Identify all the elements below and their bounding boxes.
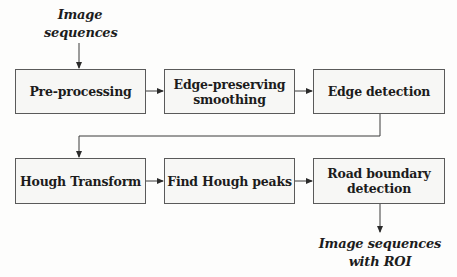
arrow-edge-detection-to-hough: [79, 113, 380, 157]
node-label: Pre-processing: [29, 84, 131, 99]
node-edge-detection: Edge detection: [313, 69, 445, 114]
output-label: Image sequences with ROI: [310, 235, 450, 271]
output-label-line2: with ROI: [310, 253, 450, 271]
input-label: Image sequences: [44, 6, 116, 42]
node-label-line1: Road boundary: [327, 166, 430, 181]
node-label: Hough Transform: [20, 174, 141, 189]
flowchart-canvas: Image sequences Pre-processing Edge-pres…: [0, 0, 457, 277]
node-hough-transform: Hough Transform: [15, 158, 146, 204]
input-label-line2: sequences: [44, 24, 116, 42]
node-label: Find Hough peaks: [167, 174, 292, 189]
output-label-line1: Image sequences: [310, 235, 450, 253]
node-label-line2: smoothing: [174, 92, 286, 107]
input-label-line1: Image: [44, 6, 116, 24]
node-label: Edge detection: [328, 84, 431, 99]
node-edge-preserving-smoothing: Edge-preserving smoothing: [164, 69, 295, 114]
node-label-line2: detection: [327, 181, 430, 196]
node-pre-processing: Pre-processing: [15, 69, 146, 114]
node-label-line1: Edge-preserving: [174, 77, 286, 92]
node-road-boundary-detection: Road boundary detection: [313, 158, 445, 204]
node-find-hough-peaks: Find Hough peaks: [164, 158, 295, 204]
